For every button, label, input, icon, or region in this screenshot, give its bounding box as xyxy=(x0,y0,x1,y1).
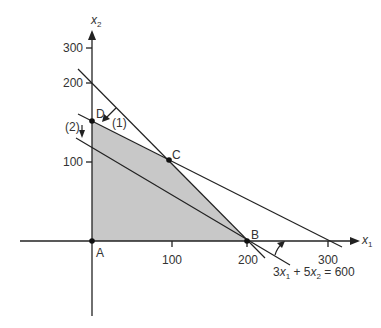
x-tick-label-200: 200 xyxy=(238,254,258,266)
point-label-a: A xyxy=(96,247,104,259)
point-label-b: B xyxy=(251,229,259,241)
point-label-d: D xyxy=(96,108,105,120)
annotation-1: (1) xyxy=(112,117,127,129)
feasible-region xyxy=(92,121,247,241)
annotation-2: (2) xyxy=(65,121,80,133)
x-tick-label-100: 100 xyxy=(162,254,182,266)
x-axis-arrow-icon xyxy=(350,237,360,245)
point-a xyxy=(89,238,95,244)
y-tick-label-200: 200 xyxy=(63,77,83,89)
x-axis-label: x1 xyxy=(362,234,372,249)
y-tick-label-300: 300 xyxy=(63,42,83,54)
y-axis-label: x2 xyxy=(91,14,101,29)
y-axis-arrow-icon xyxy=(88,30,96,40)
y-tick-label-100: 100 xyxy=(63,156,83,168)
objective-equation-label: 3x1 + 5x2 = 600 xyxy=(273,266,355,281)
point-d xyxy=(89,118,95,124)
point-b xyxy=(244,238,250,244)
point-label-c: C xyxy=(172,149,181,161)
point-c xyxy=(166,157,172,163)
objective-arrow-icon xyxy=(277,241,285,248)
arrow-2-icon xyxy=(79,130,85,138)
